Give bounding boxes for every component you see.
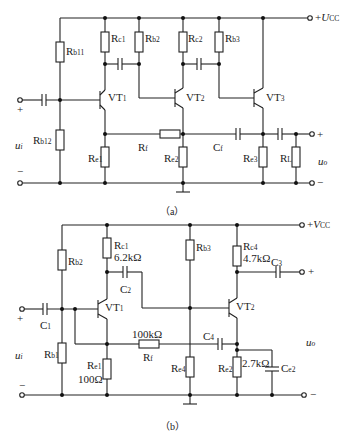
label-a-re1: Re1 (88, 153, 102, 164)
label-b-output: uo (306, 337, 315, 348)
label-b-ce2: Ce2 (281, 363, 295, 374)
label-b-c1: C1 (40, 320, 51, 331)
label-b-input-plus: + (17, 313, 23, 324)
label-b-re2-value: 2.7kΩ (242, 358, 269, 369)
label-b-rc4: Rc4 (243, 241, 257, 252)
label-a-output: uo (318, 156, 327, 167)
label-a-rb2: Rb2 (145, 33, 160, 44)
label-a-input: ui (15, 140, 23, 151)
caption-b: （b） (160, 418, 185, 433)
label-a-vt1: VT1 (108, 92, 126, 103)
label-a-supply: +UCC (315, 12, 339, 23)
label-b-rb2: Rb2 (68, 256, 83, 267)
label-b-re1-value: 100Ω (78, 374, 103, 385)
label-b-c4: C4 (203, 331, 214, 342)
label-b-output-plus: + (308, 266, 314, 277)
label-b-rf: Rf (143, 352, 153, 363)
label-b-rb1: Rb1 (44, 349, 59, 360)
label-a-rc1: Rc1 (111, 33, 125, 44)
label-a-output-minus: − (317, 177, 323, 188)
label-a-rl: RL (280, 153, 292, 164)
label-a-vt2: VT2 (186, 92, 204, 103)
label-a-rf: Rf (138, 142, 148, 153)
label-a-vt3: VT3 (266, 92, 284, 103)
label-b-output-minus: − (310, 389, 316, 400)
label-a-input-minus: − (17, 166, 23, 177)
label-b-re4: Re4 (171, 363, 185, 374)
label-b-input: ui (15, 350, 23, 361)
figure-b-wiring (20, 223, 307, 404)
label-b-rc1-value: 6.2kΩ (114, 252, 141, 263)
label-b-input-minus: − (19, 380, 25, 391)
label-b-rc1: Rc1 (114, 240, 128, 251)
label-a-cf: Cf (213, 142, 223, 153)
label-b-vt2: VT2 (236, 301, 254, 312)
label-b-c2: C2 (120, 284, 131, 295)
label-a-input-plus: + (17, 104, 23, 115)
label-b-c3: C3 (271, 257, 282, 268)
label-a-rc2: Rc2 (188, 33, 202, 44)
label-a-rb12: Rb12 (33, 135, 52, 146)
label-a-re3: Re3 (243, 153, 257, 164)
label-b-re2: Re2 (218, 363, 232, 374)
label-b-vt1: VT1 (105, 302, 123, 313)
label-b-re1: Re1 (87, 360, 101, 371)
label-a-output-plus: + (317, 129, 323, 140)
label-a-re2: Re2 (164, 153, 178, 164)
label-b-rc4-value: 4.7kΩ (243, 253, 270, 264)
label-a-rb11: Rb11 (66, 46, 84, 57)
label-b-rf-value: 100kΩ (132, 329, 162, 340)
caption-a: （a） (160, 203, 184, 218)
label-b-rb3: Rb3 (196, 242, 211, 253)
figure-a-wiring (18, 16, 315, 192)
label-b-supply: +VCC (307, 219, 330, 230)
label-a-rb3: Rb3 (225, 33, 240, 44)
